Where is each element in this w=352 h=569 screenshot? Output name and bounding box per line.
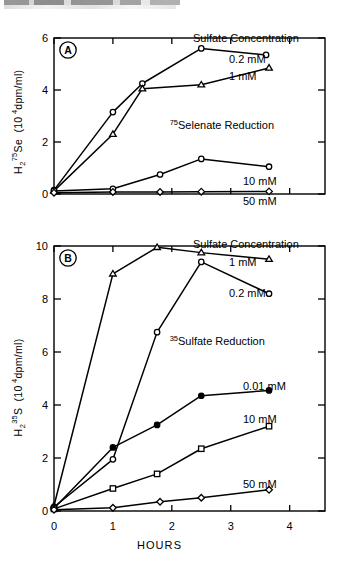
y-label-H: H xyxy=(12,166,24,174)
x-axis: 01234HOURS xyxy=(51,520,293,551)
x-tick-label-1: 1 xyxy=(110,520,116,532)
series-label-B-1: 0.2 mM xyxy=(229,287,266,299)
panel-B: 0246810BSulfate Concentration1 mM0.2 mM0… xyxy=(10,238,325,517)
panel-B-frame xyxy=(54,246,325,511)
y-tick-label-B-1: 2 xyxy=(42,452,48,464)
y-label-units-rest: dpm/ml) xyxy=(12,70,24,110)
panel-id-text: B xyxy=(64,252,72,264)
series-B-1-mm xyxy=(51,244,273,508)
figure-container: 0246ASulfate Concentration0.2 mM1 mM10 m… xyxy=(0,0,352,569)
x-tick-label-0: 0 xyxy=(51,520,57,532)
y-label-element: Se xyxy=(12,139,24,152)
y-tick-label-B-0: 0 xyxy=(42,505,48,517)
series-label-A-1: 1 mM xyxy=(229,70,257,82)
panel-A-frame xyxy=(54,38,325,194)
x-tick-label-3: 3 xyxy=(228,520,234,532)
y-label-sub2: 2 xyxy=(18,424,27,428)
y-tick-label-B-4: 8 xyxy=(42,293,48,305)
panel-id-text: A xyxy=(64,44,72,56)
y-tick-label-A-0: 0 xyxy=(42,188,48,200)
y-label-units-open: (10 xyxy=(12,117,24,133)
legend-heading-A: Sulfate Concentration xyxy=(193,32,299,44)
plot-title-A: 75Selenate Reduction xyxy=(170,118,274,132)
plot-title-B: 35Sulfate Reduction xyxy=(170,334,265,348)
plot-title-superscript: 75 xyxy=(170,118,178,127)
plot-title-text: Selenate Reduction xyxy=(178,119,274,131)
y-tick-label-B-3: 6 xyxy=(42,346,48,358)
y-axis-label-A: H275Se(104 dpm/ml) xyxy=(10,70,27,174)
series-label-B-4: 50 mM xyxy=(243,478,277,490)
y-label-units-rest: dpm/ml) xyxy=(12,339,24,379)
x-tick-label-2: 2 xyxy=(169,520,175,532)
two-panel-line-chart: 0246ASulfate Concentration0.2 mM1 mM10 m… xyxy=(0,0,352,569)
series-B-0-01-mm xyxy=(51,388,271,511)
series-line xyxy=(54,426,269,509)
y-tick-label-B-2: 4 xyxy=(42,399,48,411)
series-line xyxy=(54,390,269,508)
y-label-units-open: (10 xyxy=(12,385,24,401)
y-tick-label-A-2: 4 xyxy=(42,84,48,96)
series-label-A-3: 50 mM xyxy=(243,195,277,207)
panel-id-B: B xyxy=(60,250,76,266)
y-label-sub2: 2 xyxy=(18,162,27,166)
legend-heading-B: Sulfate Concentration xyxy=(193,238,299,250)
series-B-50-mm xyxy=(51,487,273,513)
plot-title-text: Sulfate Reduction xyxy=(178,335,265,347)
plot-title-superscript: 35 xyxy=(170,334,178,343)
series-label-A-2: 10 mM xyxy=(243,175,277,187)
y-label-isotope: 75 xyxy=(10,153,19,161)
series-B-10-mm xyxy=(51,424,271,512)
panel-id-A: A xyxy=(60,42,76,58)
y-tick-label-B-5: 10 xyxy=(36,240,48,252)
series-label-B-2: 0.01 mM xyxy=(243,380,286,392)
series-label-A-0: 0.2 mM xyxy=(229,53,266,65)
y-label-isotope: 35 xyxy=(10,415,19,423)
panel-A: 0246ASulfate Concentration0.2 mM1 mM10 m… xyxy=(10,32,325,207)
x-axis-title: HOURS xyxy=(137,539,182,551)
y-axis-label-B: H235S(104 dpm/ml) xyxy=(10,339,27,437)
series-label-B-0: 1 mM xyxy=(229,256,257,268)
y-label-H: H xyxy=(12,429,24,437)
y-tick-label-A-1: 2 xyxy=(42,136,48,148)
series-label-B-3: 10 mM xyxy=(243,413,277,425)
y-tick-label-A-3: 6 xyxy=(42,32,48,44)
y-label-element: S xyxy=(12,408,24,415)
x-tick-label-4: 4 xyxy=(287,520,293,532)
